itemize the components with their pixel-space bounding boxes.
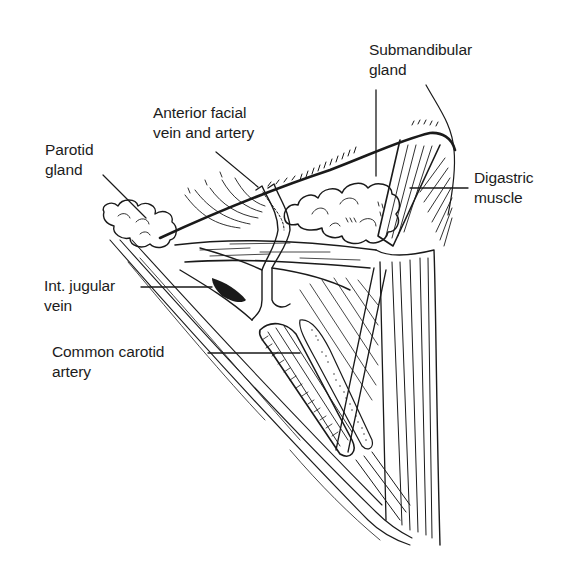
gland-lobules <box>312 198 383 226</box>
label-submandibular-line2: gland <box>369 60 472 80</box>
label-common-carotid-line2: artery <box>52 362 164 382</box>
submandibular-gland-outline <box>284 183 399 243</box>
mandible-border <box>160 133 455 238</box>
label-parotid-gland: Parotid gland <box>45 140 93 180</box>
triangle-hatching <box>300 278 378 400</box>
label-common-carotid-line1: Common carotid <box>52 342 164 362</box>
label-int-jugular-vein: Int. jugular vein <box>44 276 115 316</box>
label-anterior-facial-line1: Anterior facial <box>153 103 254 123</box>
label-digastric-line1: Digastric <box>474 168 533 188</box>
mandible-hatching <box>268 120 438 186</box>
label-parotid-line2: gland <box>45 160 93 180</box>
label-common-carotid-artery: Common carotid artery <box>52 342 164 382</box>
parotid-gland-outline <box>103 200 176 247</box>
digastric-muscle <box>378 140 452 246</box>
label-anterior-facial-vein-artery: Anterior facial vein and artery <box>153 103 254 143</box>
int-jugular-vein-shading <box>212 278 246 302</box>
label-digastric-muscle: Digastric muscle <box>474 168 533 208</box>
muscle-band <box>175 241 376 268</box>
label-parotid-line1: Parotid <box>45 140 93 160</box>
label-anterior-facial-line2: vein and artery <box>153 123 254 143</box>
label-submandibular-gland: Submandibular gland <box>369 40 472 80</box>
label-int-jugular-line1: Int. jugular <box>44 276 115 296</box>
label-int-jugular-line2: vein <box>44 296 115 316</box>
label-digastric-line2: muscle <box>474 188 533 208</box>
label-submandibular-line1: Submandibular <box>369 40 472 60</box>
fascia-strokes <box>185 172 265 228</box>
leader-parotid <box>103 175 146 218</box>
